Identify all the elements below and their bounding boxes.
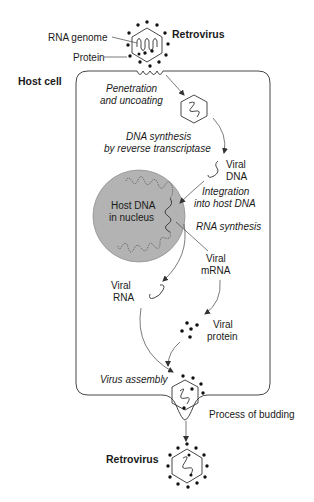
label-virus-assembly: Virus assembly [100, 374, 169, 385]
label-rna-synthesis: RNA synthesis [196, 221, 261, 232]
viral-protein-dots [180, 321, 199, 339]
protein-dots [126, 20, 169, 67]
retrovirus-lifecycle-diagram: RNA genome Protein Retrovirus Host cell … [0, 0, 314, 502]
label-in-nucleus: in nucleus [109, 212, 154, 223]
label-viral-rna-1: Viral [111, 280, 131, 291]
label-viral-mrna-1: Viral [206, 253, 226, 264]
label-budding: Process of budding [209, 409, 295, 420]
label-integration: Integration [202, 186, 250, 197]
label-dna-synthesis: DNA synthesis [126, 131, 191, 142]
label-viral-rna-2: RNA [113, 292, 134, 303]
rna-genome-leader [112, 37, 137, 43]
label-retrovirus-top: Retrovirus [172, 28, 225, 40]
retrovirus-bottom [166, 442, 208, 488]
label-viral-protein-2: protein [207, 331, 238, 342]
arrow-to-viral-protein [205, 280, 220, 314]
retrovirus-top [126, 20, 169, 67]
label-rna-genome: RNA genome [48, 32, 108, 43]
label-penetration: Penetration [106, 83, 158, 94]
arrow-dna-synthesis [213, 118, 225, 153]
label-into-host-dna: into host DNA [194, 198, 256, 209]
label-viral-dna-2: DNA [226, 171, 247, 182]
label-viral-dna-1: Viral [226, 159, 246, 170]
label-viral-protein-1: Viral [213, 319, 233, 330]
label-reverse-transcriptase: by reverse transcriptase [104, 143, 211, 154]
assembling-virus [172, 374, 205, 410]
label-uncoating: and uncoating [100, 95, 163, 106]
arrow-protein-to-assembly [168, 342, 180, 366]
label-host-dna: Host DNA [111, 200, 156, 211]
arrow-penetration [166, 75, 184, 95]
viral-dna-strand [208, 161, 218, 177]
capsid-hexagon [132, 28, 162, 62]
label-viral-mrna-2: mRNA [201, 265, 231, 276]
uncoated-capsid [181, 95, 207, 123]
label-retrovirus-bottom: Retrovirus [106, 453, 159, 465]
viral-rna-strand [150, 285, 165, 299]
label-host-cell: Host cell [18, 75, 62, 87]
rna-genome-strand [137, 39, 157, 51]
label-protein: Protein [73, 52, 105, 63]
